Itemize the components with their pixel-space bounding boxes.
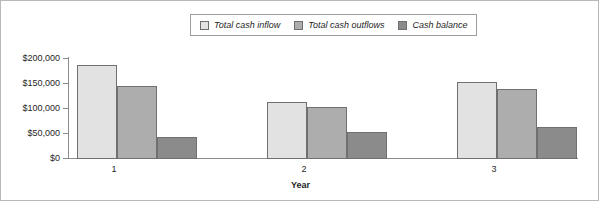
- chart-container: Total cash inflow Total cash outflows Ca…: [0, 0, 599, 201]
- legend-swatch-icon: [398, 21, 407, 30]
- bar-total-cash-outflows-year-1: [117, 86, 157, 159]
- legend-swatch-icon: [294, 21, 303, 30]
- legend-label: Total cash outflows: [308, 21, 384, 30]
- x-tick-label: 1: [111, 164, 116, 174]
- y-tick-label: $150,000: [22, 78, 60, 88]
- legend-label: Cash balance: [412, 21, 467, 30]
- y-tick-label: $200,000: [22, 53, 60, 63]
- y-axis-labels: $200,000 $150,000 $100,000 $50,000 $0: [1, 1, 60, 201]
- bar-total-cash-inflow-year-2: [267, 102, 307, 159]
- bar-cash-balance-year-3: [537, 127, 577, 159]
- bar-total-cash-outflows-year-3: [497, 89, 537, 159]
- x-tick-label: 3: [491, 164, 496, 174]
- chart-legend: Total cash inflow Total cash outflows Ca…: [190, 14, 477, 36]
- bar-cash-balance-year-1: [157, 137, 197, 159]
- y-tick-label: $100,000: [22, 103, 60, 113]
- legend-item-total-cash-outflows: Total cash outflows: [294, 21, 384, 30]
- bar-total-cash-inflow-year-3: [457, 82, 497, 159]
- bar-total-cash-inflow-year-1: [77, 65, 117, 159]
- legend-item-total-cash-inflow: Total cash inflow: [200, 21, 280, 30]
- x-axis-title: Year: [1, 180, 599, 190]
- bar-cash-balance-year-2: [347, 132, 387, 159]
- y-tick-label: $0: [50, 153, 60, 163]
- legend-item-cash-balance: Cash balance: [398, 21, 467, 30]
- legend-swatch-icon: [200, 21, 209, 30]
- bar-total-cash-outflows-year-2: [307, 107, 347, 159]
- legend-label: Total cash inflow: [214, 21, 280, 30]
- y-tick-label: $50,000: [27, 128, 60, 138]
- x-tick-label: 2: [301, 164, 306, 174]
- plot-area: [69, 58, 577, 159]
